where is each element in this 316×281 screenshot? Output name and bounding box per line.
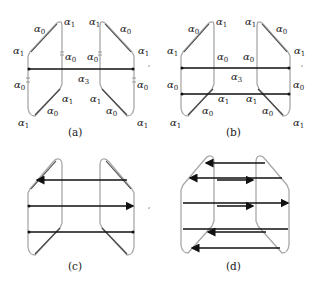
- svg-text:α0: α0: [276, 23, 287, 36]
- svg-text:α1: α1: [89, 16, 100, 29]
- caption-b: (b): [226, 126, 241, 138]
- svg-text:α1: α1: [245, 16, 256, 29]
- svg-text:α0: α0: [87, 51, 98, 64]
- svg-text:α0: α0: [243, 51, 254, 64]
- svg-text:α1: α1: [293, 117, 304, 130]
- svg-text:α0: α0: [188, 23, 199, 36]
- svg-text:,: ,: [148, 202, 150, 210]
- svg-text:,: ,: [148, 60, 150, 68]
- panel-d: (d): [181, 156, 289, 272]
- svg-text:α1: α1: [62, 93, 73, 106]
- svg-text:α1: α1: [294, 45, 305, 58]
- svg-text:α1: α1: [138, 45, 149, 58]
- svg-text:α1: α1: [90, 93, 101, 106]
- svg-text:α1: α1: [218, 93, 229, 106]
- svg-text:α0: α0: [217, 51, 228, 64]
- svg-text:α1: α1: [167, 45, 178, 58]
- caption-d: (d): [226, 260, 241, 272]
- panel-b: α1 α0 α1 α0 α0 α1 α0 α1 α3 α1 α0 α1 α0 α…: [167, 16, 305, 138]
- svg-text:α0: α0: [14, 79, 25, 92]
- svg-text:α0: α0: [167, 79, 178, 92]
- svg-text:α0: α0: [65, 51, 76, 64]
- svg-text:α1: α1: [64, 16, 75, 29]
- svg-text:α1: α1: [137, 117, 148, 130]
- svg-text:α1: α1: [13, 45, 24, 58]
- svg-text:α3: α3: [231, 71, 242, 84]
- svg-text:α1: α1: [18, 117, 29, 130]
- panel-c: , (c): [28, 159, 151, 272]
- svg-text:α0: α0: [262, 105, 273, 118]
- caption-a: (a): [68, 126, 82, 138]
- svg-text:α0: α0: [137, 79, 148, 92]
- svg-text:α0: α0: [120, 23, 131, 36]
- svg-text:α1: α1: [216, 16, 227, 29]
- svg-text:α0: α0: [202, 105, 213, 118]
- svg-text:α1: α1: [170, 117, 181, 130]
- svg-text:α0: α0: [293, 79, 304, 92]
- panel-a: α1 α0 α1 α0 α0 α1 α0 α1 α3 α1 α0 α1 α0 α…: [13, 16, 150, 138]
- figure-canvas: α1 α0 α1 α0 α0 α1 α0 α1 α3 α1 α0 α1 α0 α…: [0, 0, 316, 281]
- caption-c: (c): [68, 260, 82, 272]
- svg-text:α3: α3: [78, 73, 89, 86]
- svg-text:α0: α0: [47, 105, 58, 118]
- svg-text:α1: α1: [246, 93, 257, 106]
- svg-text:α0: α0: [34, 23, 45, 36]
- svg-text:α0: α0: [106, 105, 117, 118]
- svg-text:,: ,: [301, 60, 303, 68]
